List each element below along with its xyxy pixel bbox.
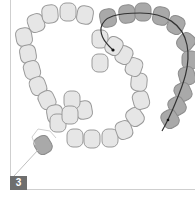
- light-bead: [92, 54, 108, 72]
- dark-bead: [135, 3, 151, 21]
- light-bead: [67, 129, 83, 147]
- light-bead: [41, 4, 59, 23]
- diagram-canvas: 3: [0, 0, 195, 201]
- thread-end-dot: [167, 119, 170, 122]
- light-bead: [62, 106, 78, 124]
- bead-diagram: [0, 0, 195, 201]
- callout-leader-line: [14, 150, 38, 176]
- light-bead: [76, 5, 95, 26]
- light-bead: [60, 3, 76, 21]
- light-beads-group: [15, 3, 151, 148]
- light-bead: [84, 130, 100, 148]
- thread-start-dot: [111, 48, 114, 51]
- step-number-badge: 3: [10, 176, 27, 190]
- light-bead: [15, 27, 34, 48]
